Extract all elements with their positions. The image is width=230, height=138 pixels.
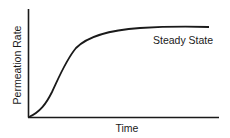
y-axis-label: Permeation Rate <box>11 25 23 104</box>
permeation-chart: Steady State Time Permeation Rate <box>0 0 230 138</box>
steady-state-annotation: Steady State <box>153 34 213 46</box>
x-axis-label: Time <box>116 122 139 134</box>
